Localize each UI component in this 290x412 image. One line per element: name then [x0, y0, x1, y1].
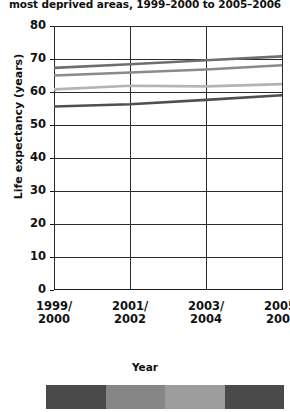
x-tick-label-line: 2002: [98, 313, 162, 326]
x-tick-label-1: 2001/2002: [98, 300, 162, 326]
legend-swatch-2: [106, 385, 166, 409]
x-tick-label-line: 2006: [250, 313, 290, 326]
legend-swatch-1: [46, 385, 106, 409]
x-axis-title: Year: [0, 361, 290, 373]
y-tick-label-80: 80: [2, 18, 46, 32]
x-tick-label-2: 2003/2004: [174, 300, 238, 326]
data-lines: [54, 26, 282, 290]
y-tick-label-70: 70: [2, 51, 46, 65]
y-tick-label-30: 30: [2, 183, 46, 197]
y-tick-label-20: 20: [2, 216, 46, 230]
vertical-gridline-3: [282, 26, 283, 290]
chart-title: most deprived areas, 1999–2000 to 2005–2…: [0, 0, 290, 10]
y-tick-label-40: 40: [2, 150, 46, 164]
y-tick-label-60: 60: [2, 84, 46, 98]
x-axis-line: [54, 289, 283, 290]
y-tick-label-0: 0: [2, 282, 46, 296]
legend-swatch-3: [165, 385, 225, 409]
legend-color-bar: [46, 385, 284, 409]
legend-swatch-4: [225, 385, 285, 409]
chart-figure: most deprived areas, 1999–2000 to 2005–2…: [0, 0, 290, 412]
plot-area: [54, 26, 282, 290]
x-tick-label-0: 1999/2000: [22, 300, 86, 326]
x-tick-label-3: 2005/2006: [250, 300, 290, 326]
y-tick-label-10: 10: [2, 249, 46, 263]
y-tick-label-50: 50: [2, 117, 46, 131]
x-tick-label-line: 2000: [22, 313, 86, 326]
x-tick-label-line: 2004: [174, 313, 238, 326]
line-series-3: [54, 84, 282, 89]
y-tick-0: [50, 290, 54, 291]
line-series-4: [54, 95, 282, 106]
